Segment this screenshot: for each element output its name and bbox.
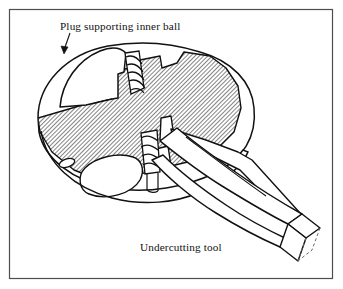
plug-supporting-inner-ball <box>60 48 126 107</box>
label-plug-supporting-inner-ball: Plug supporting inner ball <box>60 20 180 32</box>
leader-arrowhead <box>61 46 68 54</box>
leader-arrow-group <box>61 33 70 54</box>
label-undercutting-tool: Undercutting tool <box>140 241 222 253</box>
technical-illustration: Plug supporting inner ball Undercutting … <box>0 0 343 289</box>
figure-container: Plug supporting inner ball Undercutting … <box>0 0 343 289</box>
